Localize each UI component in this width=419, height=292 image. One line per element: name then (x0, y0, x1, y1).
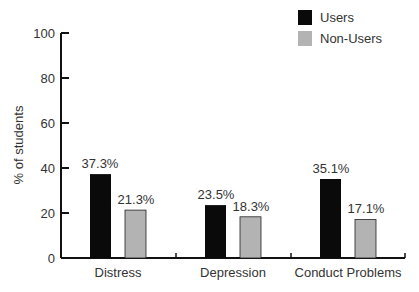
y-tick-labels: 0 20 40 60 80 100 (33, 26, 55, 266)
bar-nonusers-depression (240, 217, 261, 258)
legend-swatch-users (298, 10, 312, 25)
y-tick-0: 0 (48, 251, 55, 266)
category-label-conduct-problems: Conduct Problems (295, 265, 402, 280)
y-tick-60: 60 (41, 116, 55, 131)
bar-chart: % of students 0 20 40 60 80 100 37.3% (0, 0, 419, 292)
y-axis-ticks (61, 33, 69, 258)
legend: Users Non-Users (298, 10, 383, 46)
category-label-depression: Depression (200, 265, 266, 280)
value-label: 35.1% (313, 161, 350, 176)
category-label-distress: Distress (95, 265, 142, 280)
x-category-labels: Distress Depression Conduct Problems (95, 265, 402, 280)
value-label: 18.3% (233, 199, 270, 214)
legend-label-non-users: Non-Users (320, 31, 383, 46)
value-label: 21.3% (118, 192, 155, 207)
bar-nonusers-conduct-problems (355, 220, 376, 259)
y-tick-20: 20 (41, 206, 55, 221)
y-axis-title: % of students (11, 105, 26, 184)
y-tick-80: 80 (41, 71, 55, 86)
value-label: 37.3% (82, 156, 119, 171)
y-tick-40: 40 (41, 161, 55, 176)
value-label: 17.1% (348, 201, 385, 216)
bar-users-conduct-problems (320, 179, 341, 258)
y-tick-100: 100 (33, 26, 55, 41)
bar-nonusers-distress (125, 210, 146, 258)
legend-swatch-non-users (298, 31, 312, 46)
legend-label-users: Users (320, 10, 354, 25)
bar-users-depression (205, 205, 226, 258)
bar-users-distress (90, 174, 111, 258)
value-label: 23.5% (198, 187, 235, 202)
